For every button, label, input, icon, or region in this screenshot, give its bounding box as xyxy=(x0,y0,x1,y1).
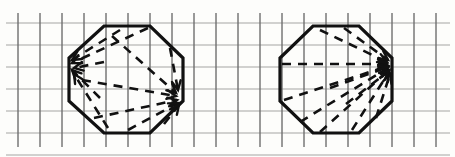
figure-canvas xyxy=(0,0,455,157)
octagon-vector-figure xyxy=(0,0,455,157)
